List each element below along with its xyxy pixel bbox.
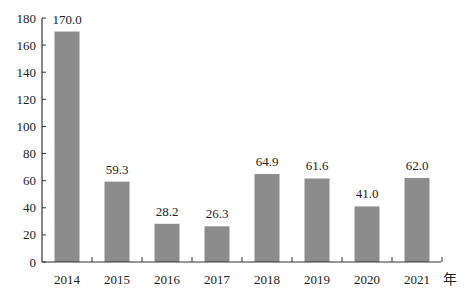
value-label-2017: 26.3 [206,206,229,221]
x-tick-label-2018: 2018 [254,272,280,287]
y-tick-label: 0 [30,255,37,270]
bars: 170.059.328.226.364.961.641.062.0 [52,12,429,262]
value-label-2016: 28.2 [156,204,179,219]
y-tick-label: 120 [17,92,37,107]
bar-chart: 170.059.328.226.364.961.641.062.0 020406… [0,0,465,300]
value-label-2020: 41.0 [356,186,379,201]
value-label-2018: 64.9 [256,154,279,169]
bar-2016 [155,224,180,262]
y-tick-label: 140 [17,65,37,80]
x-tick-label-2015: 2015 [104,272,130,287]
bar-2014 [55,32,80,262]
bar-2015 [105,182,130,262]
bar-2021 [405,178,430,262]
y-tick-label: 20 [23,227,36,242]
x-tick-label-2021: 2021 [404,272,430,287]
x-axis: 20142015201620172018201920202021年 [42,257,457,287]
x-tick-label-2014: 2014 [54,272,81,287]
y-tick-label: 160 [17,38,37,53]
value-label-2014: 170.0 [52,12,81,27]
x-tick-label-2016: 2016 [154,272,181,287]
y-tick-label: 180 [17,11,37,26]
bar-2017 [205,226,230,262]
y-axis: 020406080100120140160180 [17,11,47,270]
bar-2019 [305,178,330,262]
bar-2020 [355,206,380,262]
y-tick-label: 40 [23,200,36,215]
x-tick-label-2019: 2019 [304,272,330,287]
value-label-2021: 62.0 [406,158,429,173]
bar-2018 [255,174,280,262]
x-tick-label-2020: 2020 [354,272,380,287]
y-tick-label: 80 [23,146,36,161]
x-tick-label-2017: 2017 [204,272,231,287]
y-tick-label: 100 [17,119,37,134]
y-tick-label: 60 [23,173,36,188]
chart-canvas: 170.059.328.226.364.961.641.062.0 020406… [0,0,465,300]
value-label-2015: 59.3 [106,162,129,177]
value-label-2019: 61.6 [306,158,329,173]
x-axis-label: 年 [443,272,457,287]
